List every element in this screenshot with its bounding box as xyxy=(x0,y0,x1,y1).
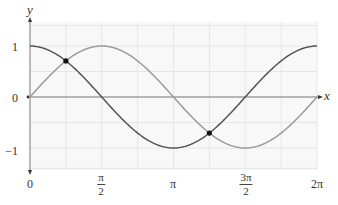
x-tick-label-0: 0 xyxy=(27,177,33,192)
origin-dot xyxy=(27,96,30,99)
x-axis-label: x xyxy=(322,90,332,102)
intersection-point xyxy=(63,58,68,63)
x-tick-label-three-half-pi: 3π 2 xyxy=(239,172,252,197)
y-axis-down-arrow-icon xyxy=(28,170,32,175)
y-tick-label-neg1: −1 xyxy=(4,144,18,159)
x-tick-half-pi-numerator: π xyxy=(97,172,105,185)
x-tick-label-pi: π xyxy=(170,177,176,192)
y-tick-label-1: 1 xyxy=(4,40,18,55)
x-tick-three-half-pi-numerator: 3π xyxy=(239,172,252,185)
x-tick-three-half-pi-denominator: 2 xyxy=(243,185,249,197)
x-tick-label-two-pi: 2π xyxy=(311,177,323,192)
y-axis-arrow-icon xyxy=(28,17,32,22)
y-tick-label-0: 0 xyxy=(4,91,18,106)
x-tick-half-pi-denominator: 2 xyxy=(98,185,104,197)
y-axis-label: y xyxy=(25,4,35,16)
x-tick-label-half-pi: π 2 xyxy=(97,172,105,197)
intersection-point xyxy=(207,130,212,135)
chart-canvas xyxy=(0,0,338,205)
